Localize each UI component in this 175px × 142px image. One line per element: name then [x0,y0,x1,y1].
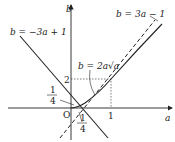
tick-label-b-2: 2 [64,75,70,85]
fraction-bottom-num: 1 [80,113,86,123]
fraction-bottom-den: 4 [80,124,86,134]
fraction-left-den: 4 [50,96,56,106]
label-line-neg: b = −3a + 1 [10,27,67,37]
label-line-pos: b = 3a − 1 [116,9,165,19]
diagram: b = −3a + 1 b = 3a − 1 b = 2a√a b a O 1 … [0,0,175,142]
label-b-axis: b [66,4,72,14]
fraction-left-num: 1 [50,85,56,95]
tick-label-a-1: 1 [108,111,114,121]
leader-curve [90,70,95,95]
label-origin: O [63,110,70,120]
leader-left-frac [60,100,74,105]
line-neg [20,36,108,138]
fraction-left: 1 4 [47,85,57,106]
guide-dotted [71,79,111,108]
label-a-axis: a [165,113,170,123]
fraction-bottom: 1 4 [77,113,87,134]
label-curve: b = 2a√a [78,61,119,71]
